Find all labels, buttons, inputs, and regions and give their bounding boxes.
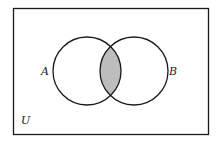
universe-label: U <box>21 114 31 127</box>
set-b-label: B <box>168 65 177 78</box>
set-a-label: A <box>40 65 49 78</box>
venn-diagram: A B U <box>0 0 219 146</box>
